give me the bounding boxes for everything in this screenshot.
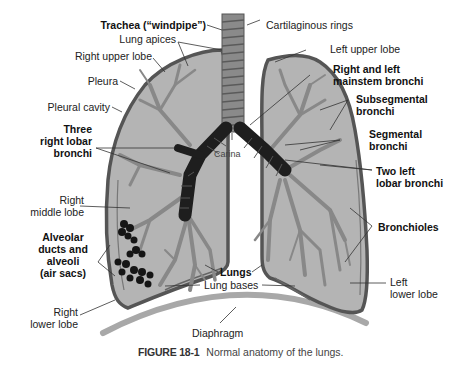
subsegmental-line1: Subsegmental bbox=[356, 93, 428, 105]
left-lower-line1: Left bbox=[390, 276, 438, 288]
right-middle-line1: Right bbox=[20, 194, 84, 206]
three-lobar-line1: Three bbox=[20, 123, 92, 135]
segmental-line2: bronchi bbox=[369, 140, 422, 152]
label-lung-apices: Lung apices bbox=[100, 33, 176, 45]
label-segmental-bronchi: Segmental bronchi bbox=[369, 128, 422, 152]
label-right-upper-lobe: Right upper lobe bbox=[52, 50, 152, 62]
two-left-line2: lobar bronchi bbox=[376, 177, 443, 189]
three-lobar-line3: bronchi bbox=[20, 147, 92, 159]
label-alveolar-ducts: Alveolar ducts and alveoli (air sacs) bbox=[30, 231, 96, 279]
two-left-line1: Two left bbox=[376, 165, 443, 177]
right-lower-line1: Right bbox=[20, 306, 78, 318]
label-pleura: Pleura bbox=[62, 75, 118, 87]
alveolar-line4: (air sacs) bbox=[30, 267, 96, 279]
label-lung-bases: Lung bases bbox=[204, 279, 258, 291]
label-left-upper-lobe: Left upper lobe bbox=[330, 43, 400, 55]
label-lungs: Lungs bbox=[220, 266, 252, 278]
label-mainstem-bronchi: Right and left mainstem bronchi bbox=[333, 63, 423, 87]
alveolar-line1: Alveolar bbox=[30, 231, 96, 243]
label-bronchioles: Bronchioles bbox=[378, 221, 439, 233]
label-cartilaginous-rings: Cartilaginous rings bbox=[266, 19, 353, 31]
label-trachea: Trachea (“windpipe”) bbox=[94, 19, 206, 31]
alveolar-line2: ducts and bbox=[30, 243, 96, 255]
label-left-lower-lobe: Left lower lobe bbox=[390, 276, 438, 300]
figure-caption-text: Normal anatomy of the lungs. bbox=[206, 346, 343, 358]
alveolar-line3: alveoli bbox=[30, 255, 96, 267]
mainstem-line1: Right and left bbox=[333, 63, 423, 75]
left-lower-line2: lower lobe bbox=[390, 288, 438, 300]
label-three-right-lobar-bronchi: Three right lobar bronchi bbox=[20, 123, 92, 159]
right-middle-line2: middle lobe bbox=[20, 206, 84, 218]
figure-caption: FIGURE 18-1 Normal anatomy of the lungs. bbox=[138, 346, 343, 358]
label-carina: Carina bbox=[214, 148, 241, 160]
label-two-left-lobar-bronchi: Two left lobar bronchi bbox=[376, 165, 443, 189]
figure-number: FIGURE 18-1 bbox=[138, 346, 199, 358]
three-lobar-line2: right lobar bbox=[20, 135, 92, 147]
label-diaphragm: Diaphragm bbox=[192, 327, 243, 339]
label-right-middle-lobe: Right middle lobe bbox=[20, 194, 84, 218]
label-pleural-cavity: Pleural cavity bbox=[30, 101, 110, 113]
mainstem-line2: mainstem bronchi bbox=[333, 75, 423, 87]
subsegmental-line2: bronchi bbox=[356, 105, 428, 117]
label-right-lower-lobe: Right lower lobe bbox=[20, 306, 78, 330]
trachea-shape bbox=[222, 14, 244, 132]
label-subsegmental-bronchi: Subsegmental bronchi bbox=[356, 93, 428, 117]
segmental-line1: Segmental bbox=[369, 128, 422, 140]
right-lower-line2: lower lobe bbox=[20, 318, 78, 330]
